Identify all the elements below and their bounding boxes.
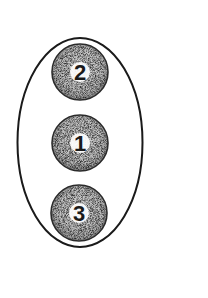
node-1: 1 [52,115,108,171]
node-3: 3 [51,185,107,241]
node-1-label: 1 [74,131,86,156]
diagram-canvas: 2 1 3 [0,0,208,298]
node-2-label: 2 [74,60,86,85]
node-2: 2 [52,44,108,100]
node-3-label: 3 [73,201,85,226]
